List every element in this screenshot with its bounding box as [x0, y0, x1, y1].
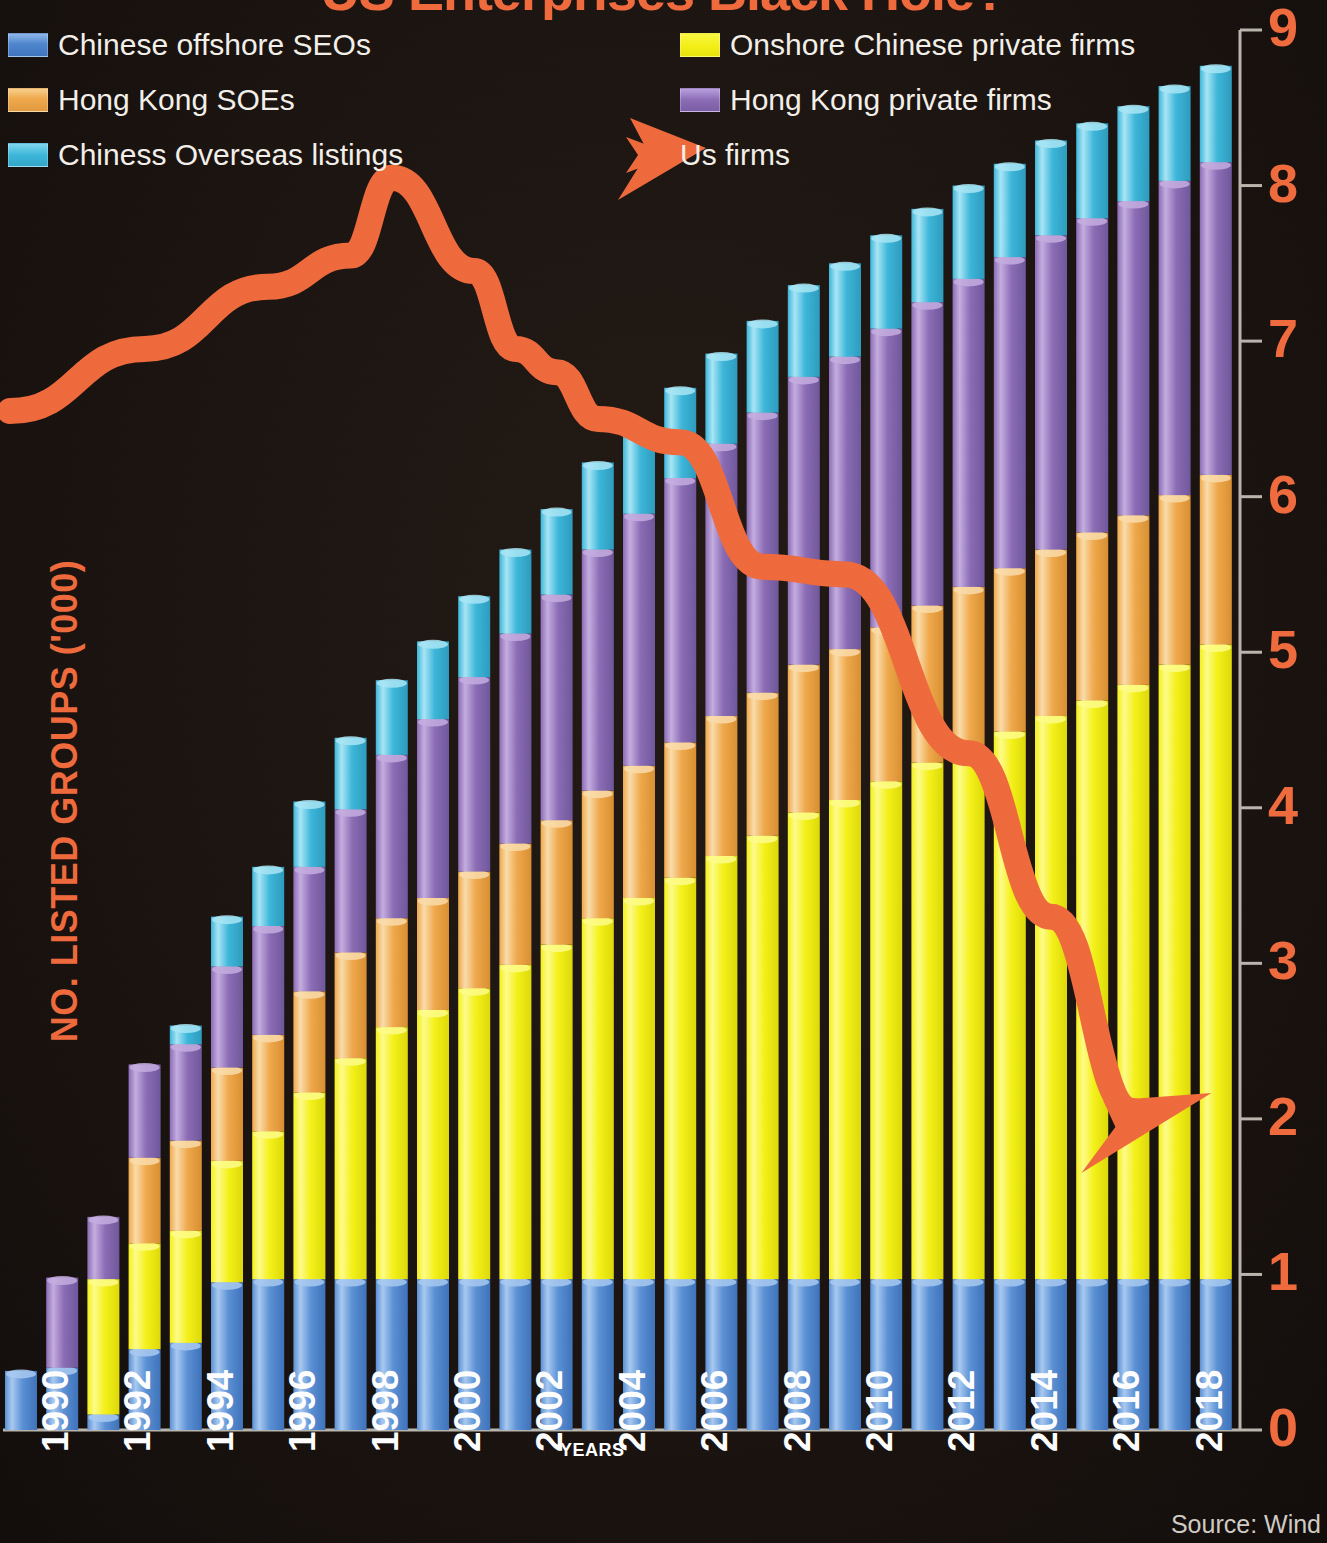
bar-2015-4	[1035, 140, 1067, 235]
legend-swatch-2	[8, 143, 48, 167]
bar-cap-1991-3	[47, 1276, 77, 1285]
legend-label-1: Hong Kong SOEs	[58, 85, 295, 115]
bar-1996-4	[252, 867, 284, 926]
bar-1998-4	[335, 738, 367, 810]
x-tick-2014: 2014	[1024, 1370, 1066, 1452]
bar-2004-0	[582, 1279, 614, 1430]
bar-2002-1	[499, 965, 531, 1279]
bar-2009-1	[788, 812, 820, 1279]
bar-1997-4	[293, 802, 325, 867]
bar-cap-2007-4	[706, 352, 736, 361]
bar-2001-4	[458, 596, 490, 677]
bar-2013-1	[953, 747, 985, 1279]
bar-2010-2	[829, 649, 861, 800]
bar-1996-3	[252, 926, 284, 1035]
bar-2004-1	[582, 918, 614, 1279]
bar-2000-1	[417, 1010, 449, 1279]
legend-item-2[interactable]: Chiness Overseas listings	[8, 132, 403, 178]
bar-2006-1	[664, 878, 696, 1279]
bar-1999-3	[376, 755, 408, 918]
bar-1998-3	[335, 809, 367, 952]
bar-2004-2	[582, 791, 614, 919]
bar-1991-3	[46, 1278, 78, 1368]
bar-1994-2	[170, 1141, 202, 1231]
bar-2000-4	[417, 641, 449, 719]
legend-item-0[interactable]: Chinese offshore SEOs	[8, 22, 371, 68]
bar-2009-3	[788, 377, 820, 665]
bar-2005-2	[623, 766, 655, 898]
x-tick-1994: 1994	[200, 1370, 242, 1452]
bar-2010-4	[829, 263, 861, 356]
bar-cap-2019-4	[1201, 64, 1231, 73]
chart-plot-area	[0, 0, 1327, 1543]
bar-2016-2	[1076, 532, 1108, 700]
bar-cap-1997-4	[294, 800, 324, 809]
bar-2017-3	[1117, 201, 1149, 515]
bar-2001-1	[458, 988, 490, 1279]
bar-2013-4	[953, 186, 985, 279]
legend-label-5: Us firms	[680, 140, 790, 170]
bar-1995-1	[211, 1161, 243, 1282]
bar-1994-3	[170, 1044, 202, 1140]
x-tick-2018: 2018	[1189, 1370, 1231, 1452]
bar-cap-2004-4	[583, 461, 613, 470]
bar-cap-2016-4	[1077, 122, 1107, 131]
bar-2014-0	[994, 1279, 1026, 1430]
legend-item-3[interactable]: Onshore Chinese private firms	[680, 22, 1135, 68]
bar-2015-1	[1035, 716, 1067, 1279]
legend-swatch-3	[680, 33, 720, 57]
bar-2018-4	[1159, 86, 1191, 181]
bar-2000-2	[417, 898, 449, 1010]
bar-1997-2	[293, 991, 325, 1092]
bar-2019-4	[1200, 66, 1232, 162]
bar-2017-4	[1117, 106, 1149, 201]
bar-2012-0	[911, 1279, 943, 1430]
bar-cap-2018-4	[1160, 85, 1190, 94]
bar-cap-2001-4	[459, 595, 489, 604]
bar-2002-3	[499, 634, 531, 844]
bar-cap-1990-0	[6, 1369, 36, 1378]
y-tick-5: 5	[1268, 622, 1326, 676]
bar-2003-1	[541, 945, 573, 1279]
legend-item-4[interactable]: Hong Kong private firms	[680, 77, 1052, 123]
bar-2019-3	[1200, 162, 1232, 475]
bar-2018-2	[1159, 495, 1191, 665]
legend-swatch-1	[8, 88, 48, 112]
bar-1993-1	[129, 1243, 161, 1349]
x-tick-1992: 1992	[117, 1370, 159, 1452]
bar-1992-1	[87, 1279, 119, 1414]
x-tick-1996: 1996	[282, 1370, 324, 1452]
bar-cap-2006-4	[665, 386, 695, 395]
x-tick-1990: 1990	[35, 1370, 77, 1452]
bar-1994-1	[170, 1231, 202, 1343]
bar-2010-0	[829, 1279, 861, 1430]
bar-2008-0	[747, 1279, 779, 1430]
bar-2015-3	[1035, 235, 1067, 549]
legend-swatch-4	[680, 88, 720, 112]
bar-2003-2	[541, 820, 573, 944]
bar-cap-1994-4	[171, 1024, 201, 1033]
bar-1998-1	[335, 1058, 367, 1279]
bar-2012-3	[911, 302, 943, 605]
bar-2014-2	[994, 568, 1026, 731]
y-tick-0: 0	[1268, 1400, 1326, 1454]
y-tick-2: 2	[1268, 1089, 1326, 1143]
legend-item-1[interactable]: Hong Kong SOEs	[8, 77, 295, 123]
bar-2002-0	[499, 1279, 531, 1430]
bar-2017-1	[1117, 685, 1149, 1279]
legend-item-5[interactable]: Us firms	[680, 132, 790, 178]
bar-1995-2	[211, 1068, 243, 1161]
bar-2011-4	[870, 235, 902, 328]
bar-cap-2008-4	[748, 319, 778, 328]
bar-cap-2010-4	[830, 262, 860, 271]
bar-2005-1	[623, 898, 655, 1279]
y-tick-3: 3	[1268, 933, 1326, 987]
bar-1999-2	[376, 918, 408, 1027]
bar-1995-3	[211, 966, 243, 1067]
bar-cap-2009-4	[789, 284, 819, 293]
bar-series-group	[5, 64, 1232, 1430]
bar-2007-1	[705, 856, 737, 1279]
bar-cap-2013-4	[954, 184, 984, 193]
x-tick-2010: 2010	[859, 1370, 901, 1452]
bar-2000-0	[417, 1279, 449, 1430]
